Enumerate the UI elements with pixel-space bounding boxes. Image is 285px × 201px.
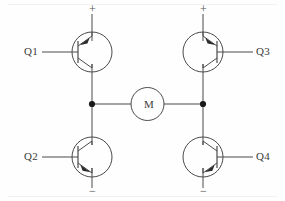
transistor-label-q3: Q3: [256, 45, 270, 57]
transistor-label-q4: Q4: [256, 150, 270, 162]
page-frame-bottom-rule: [8, 196, 277, 197]
q3-emitter-leg: [203, 36, 217, 46]
supply-terminal-right-negative: −: [200, 184, 207, 199]
q4-collector-leg: [203, 141, 217, 151]
transistor-label-q2: Q2: [24, 150, 38, 162]
circuit-diagram-canvas: Q1 Q2 Q3 Q4 M + − + −: [0, 0, 285, 201]
junction-node-right: [200, 101, 206, 107]
page-frame-top-rule: [8, 4, 277, 5]
supply-terminal-right-positive: +: [200, 2, 207, 17]
transistor-label-q1: Q1: [24, 45, 38, 57]
q1-collector-leg: [78, 58, 92, 68]
motor-label: M: [144, 98, 154, 110]
supply-terminal-left-positive: +: [89, 2, 96, 17]
schematic-svg: [0, 0, 285, 201]
q1-emitter-leg: [78, 36, 92, 46]
supply-terminal-left-negative: −: [89, 184, 96, 199]
q3-collector-leg: [203, 58, 217, 68]
q2-emitter-leg: [78, 163, 92, 173]
junction-node-left: [89, 101, 95, 107]
q2-collector-leg: [78, 141, 92, 151]
q4-emitter-leg: [203, 163, 217, 173]
